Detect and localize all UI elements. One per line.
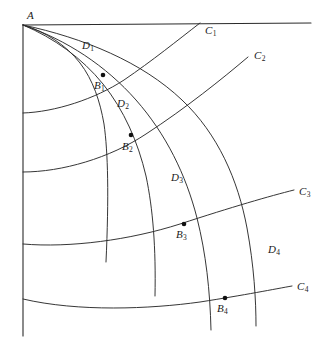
curve-label-d2: D2	[117, 98, 129, 111]
boundary-lines	[23, 23, 311, 336]
curve-label-d1: D1	[82, 40, 94, 53]
arc-c4	[23, 286, 292, 308]
point-label-b4: B4	[217, 303, 228, 316]
curve-label-d4: D4	[268, 244, 280, 257]
point-b4	[223, 296, 228, 301]
point-b3	[182, 222, 187, 227]
point-label-b3: B3	[176, 229, 187, 242]
point-b2	[129, 133, 134, 138]
geometry-figure: A C1 C2 C3 C4 D1 D2 D3 D4 B1 B2 B3 B4	[0, 0, 331, 338]
point-b1	[101, 73, 106, 78]
c-arc-group	[23, 23, 294, 308]
arc-c3	[23, 190, 294, 245]
figure-canvas	[0, 0, 331, 338]
curve-label-d3: D3	[171, 172, 183, 185]
curve-d1	[23, 25, 108, 262]
curve-label-c2: C2	[254, 50, 265, 63]
curve-d4	[23, 25, 256, 326]
point-label-b1: B1	[94, 80, 105, 93]
curve-label-c3: C3	[299, 186, 310, 199]
arc-c2	[23, 57, 248, 172]
point-label-b2: B2	[122, 141, 133, 154]
top-boundary-line	[23, 23, 311, 25]
d-curve-group	[23, 25, 256, 330]
curve-label-c4: C4	[297, 281, 308, 294]
curve-label-c1: C1	[205, 25, 216, 38]
vertex-label-a: A	[27, 10, 34, 21]
